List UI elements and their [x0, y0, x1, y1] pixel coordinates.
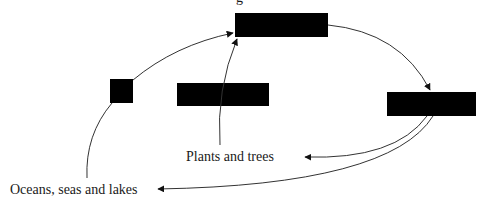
- edge-top-to-right: [328, 25, 430, 90]
- box-right: [387, 92, 476, 116]
- top-label-fragment: g: [236, 0, 243, 5]
- label-plants-and-trees: Plants and trees: [186, 149, 274, 164]
- water-cycle-diagram: g Plants and trees Oceans, seas and lake…: [0, 0, 480, 211]
- box-left-small: [110, 79, 133, 103]
- label-oceans-seas-lakes: Oceans, seas and lakes: [10, 182, 138, 197]
- edge-oceans-to-left-small: [87, 103, 112, 178]
- edge-right-to-plants: [305, 116, 427, 157]
- box-top: [235, 13, 328, 37]
- edge-left-small-to-top: [133, 33, 233, 80]
